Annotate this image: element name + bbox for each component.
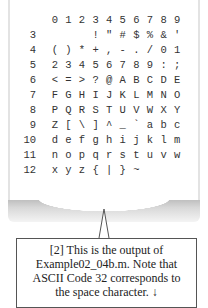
callout-line: the space character. ↓ [17, 285, 196, 299]
callout-pointer-outline [99, 209, 109, 238]
callout-line: ASCII Code 32 corresponds to [17, 271, 196, 285]
callout-line: [2] This is the output of [17, 243, 196, 257]
callout-line: Example02_04b.m. Note that [17, 257, 196, 271]
callout-box: [2] This is the output of Example02_04b.… [16, 238, 197, 308]
